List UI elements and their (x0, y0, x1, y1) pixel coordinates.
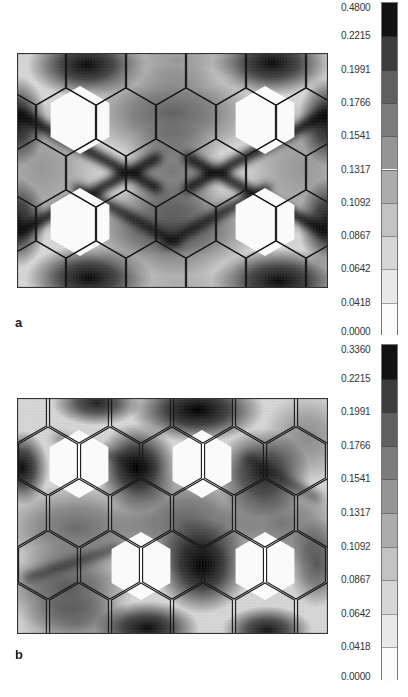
colorbar-band (382, 647, 397, 681)
colorbar-tick-label: 0.0867 (341, 231, 370, 241)
colorbar-tick-label: 0.0642 (341, 609, 370, 619)
colorbar-band (382, 513, 397, 547)
colorbar-band (382, 303, 397, 336)
colorbar-tick-label: 0.0418 (341, 642, 370, 652)
colorbar-tick-label: 0.2215 (341, 31, 370, 41)
heatmap-b (17, 398, 328, 634)
colorbar-band (382, 547, 397, 581)
colorbar-band (382, 345, 397, 379)
colorbar-band (382, 136, 397, 169)
panel-label-a: a (15, 315, 22, 330)
colorbar-b (381, 344, 398, 680)
colorbar-band (382, 170, 397, 203)
colorbar-tick-label: 0.1541 (341, 474, 370, 484)
colorbar-band (382, 446, 397, 480)
colorbar-tick-label: 0.1766 (341, 98, 370, 108)
colorbar-a (381, 2, 398, 335)
colorbar-band (382, 236, 397, 269)
colorbar-tick-label: 0.4800 (341, 3, 370, 13)
colorbar-tick-label: 0.0000 (341, 327, 370, 337)
heatmap-panel-a (17, 53, 328, 288)
colorbar-tick-label: 0.1092 (341, 198, 370, 208)
heatmap-a (17, 53, 328, 288)
colorbar-tick-label: 0.1317 (341, 508, 370, 518)
colorbar-tick-label: 0.1092 (341, 542, 370, 552)
colorbar-tick-label: 0.1991 (341, 407, 370, 417)
colorbar-band (382, 269, 397, 302)
colorbar-band (382, 203, 397, 236)
colorbar-band (382, 580, 397, 614)
colorbar-tick-label: 0.3360 (341, 345, 370, 355)
colorbar-band (382, 103, 397, 136)
colorbar-band (382, 70, 397, 103)
colorbar-band (382, 412, 397, 446)
colorbar-band (382, 36, 397, 69)
colorbar-tick-label: 0.0867 (341, 575, 370, 585)
colorbar-tick-label: 0.1766 (341, 441, 370, 451)
colorbar-tick-label: 0.0418 (341, 298, 370, 308)
colorbar-band (382, 614, 397, 648)
colorbar-tick-label: 0.1991 (341, 65, 370, 75)
colorbar-band (382, 479, 397, 513)
colorbar-band (382, 3, 397, 36)
colorbar-tick-label: 0.1317 (341, 165, 370, 175)
colorbar-tick-label: 0.2215 (341, 374, 370, 384)
colorbar-tick-label: 0.0642 (341, 264, 370, 274)
colorbar-tick-label: 0.0000 (341, 672, 370, 682)
heatmap-panel-b (17, 398, 328, 634)
colorbar-band (382, 379, 397, 413)
panel-label-b: b (15, 647, 23, 662)
colorbar-tick-label: 0.1541 (341, 131, 370, 141)
